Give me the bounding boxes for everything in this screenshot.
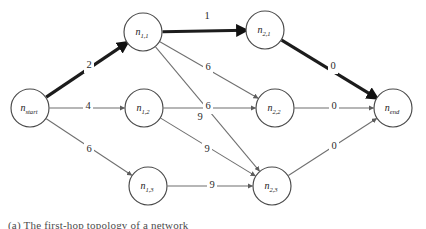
graph-node: nstart (11, 89, 49, 127)
edge-weight-label: 6 (86, 143, 91, 154)
graph-node: n2,3 (253, 167, 291, 205)
edge-weight-label: 9 (204, 143, 209, 154)
graph-node: n1,2 (125, 89, 163, 127)
edge-weight-label: 4 (85, 100, 91, 111)
edge-weight-label: 0 (331, 140, 336, 151)
graph-canvas: nstartn1,1n1,2n1,3n2,1n2,2n2,3nend 24616… (0, 0, 426, 229)
edge-weight-label: 9 (197, 111, 202, 122)
graph-node: n1,1 (124, 13, 162, 51)
graph-node: n1,3 (129, 167, 167, 205)
edge-weight-label: 9 (209, 179, 214, 190)
graph-edge (162, 30, 245, 31)
edge-weight-label: 0 (331, 100, 336, 111)
figure-caption: (a) The first-hop topology of a network (8, 219, 189, 229)
graph-diagram: nstartn1,1n1,2n1,3n2,1n2,2n2,3nend 24616… (0, 0, 426, 229)
edge-weight-label: 1 (204, 10, 209, 21)
edge-weight-label: 6 (205, 61, 210, 72)
edge-weight-labels-layer: 246169699000 (83, 10, 339, 193)
edge-weight-label: 2 (86, 59, 91, 70)
edge-weight-label: 6 (205, 100, 210, 111)
graph-node: n2,1 (246, 11, 284, 49)
graph-node: n2,2 (256, 89, 294, 127)
graph-node: nend (374, 89, 412, 127)
edge-weight-label: 0 (330, 60, 335, 71)
